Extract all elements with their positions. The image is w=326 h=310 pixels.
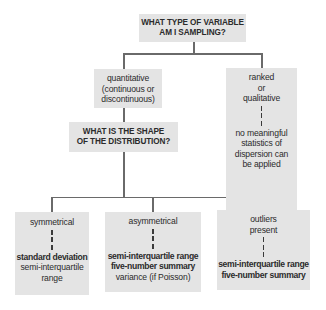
quantitative-line-1: quantitative (94, 73, 162, 84)
ranked-line-2: or (226, 83, 297, 94)
connector-shape-down (123, 152, 125, 197)
connector-to-quantitative (123, 53, 125, 69)
dashed-connector (15, 230, 89, 250)
quantitative-line-3: discontinuous) (94, 94, 162, 105)
asymmetrical-result-1: variance (if Poisson) (105, 272, 201, 283)
ranked-result-line-3: dispersion can (226, 149, 297, 160)
connector-root-horizontal (123, 53, 263, 55)
shape-question-line-2: OF THE DISTRIBUTION? (69, 137, 178, 148)
ranked-result-line-1: no meaningful (226, 128, 297, 139)
symmetrical-label: symmetrical (15, 217, 89, 228)
root-question-box: WHAT TYPE OF VARIABLE AM I SAMPLING? (139, 14, 246, 42)
symmetrical-result-1: semi-interquartile (15, 262, 89, 273)
outliers-label-line-2: present (217, 225, 310, 236)
ranked-line-1: ranked (226, 72, 297, 83)
quantitative-box: quantitative (continuous or discontinuou… (94, 69, 162, 108)
symmetrical-result-2: range (15, 273, 89, 284)
symmetrical-bold-result-1: standard deviation (15, 252, 89, 263)
shape-question-box: WHAT IS THE SHAPE OF THE DISTRIBUTION? (69, 122, 178, 152)
shape-question-line-1: WHAT IS THE SHAPE (69, 127, 178, 138)
outliers-bold-result-1: semi-interquartile range (217, 259, 310, 270)
ranked-result-line-2: statistics of (226, 138, 297, 149)
asymmetrical-box: asymmetrical semi-interquartile range fi… (105, 212, 201, 292)
dashed-connector (226, 106, 297, 126)
asymmetrical-bold-result-1: semi-interquartile range (105, 251, 201, 262)
connector-quantitative-to-shape (123, 108, 125, 122)
connector-to-ranked (261, 53, 263, 68)
connector-root-down (193, 42, 195, 53)
connector-to-symmetrical (51, 197, 53, 213)
outliers-label-line-1: outliers (217, 214, 310, 225)
root-question-line-1: WHAT TYPE OF VARIABLE (139, 18, 246, 29)
connector-to-asymmetrical (152, 197, 154, 213)
symmetrical-box: symmetrical standard deviation semi-inte… (15, 212, 89, 295)
asymmetrical-bold-result-2: five-number summary (105, 261, 201, 272)
dashed-connector (217, 237, 310, 257)
root-question-line-2: AM I SAMPLING? (139, 28, 246, 39)
outliers-bold-result-2: five-number summary (217, 270, 310, 281)
asymmetrical-label: asymmetrical (105, 216, 201, 227)
ranked-result-line-4: be applied (226, 159, 297, 170)
dashed-connector (105, 229, 201, 249)
ranked-line-3: qualitative (226, 93, 297, 104)
outliers-box: outliers present semi-interquartile rang… (217, 210, 310, 290)
quantitative-line-2: (continuous or (94, 84, 162, 95)
